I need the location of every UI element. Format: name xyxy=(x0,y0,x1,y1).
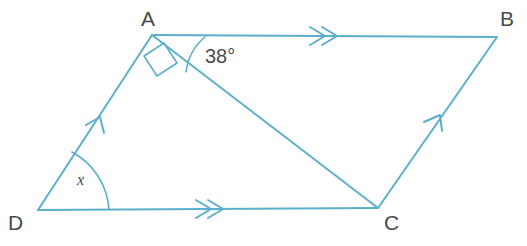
geometry-figure: A B C D 38° x xyxy=(0,0,527,246)
angle-label-x: x xyxy=(77,172,84,188)
vertex-label-c: C xyxy=(384,212,399,233)
segment-da xyxy=(38,35,152,210)
right-angle-marker-at-a xyxy=(144,43,177,76)
segment-ac-diagonal xyxy=(152,35,378,208)
angle-arc-at-a xyxy=(186,37,205,72)
geometry-canvas xyxy=(0,0,527,246)
vertex-label-a: A xyxy=(141,8,155,29)
vertex-label-b: B xyxy=(500,8,514,29)
vertex-label-d: D xyxy=(8,212,23,233)
segment-bc xyxy=(378,37,497,208)
angle-label-38-degrees: 38° xyxy=(205,46,235,66)
